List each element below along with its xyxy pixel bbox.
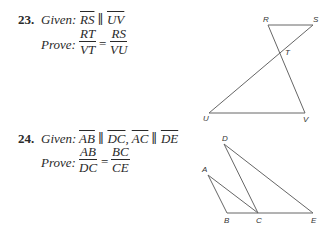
segment-SU [209, 25, 313, 113]
point-label-U: U [203, 114, 209, 123]
figure-problem-23: RSTUV [203, 15, 319, 124]
figure-problem-24: ABCDE [201, 134, 317, 225]
geometry-figures: RSTUVABCDE [0, 0, 333, 227]
point-label-V: V [303, 115, 309, 124]
point-label-B: B [224, 216, 230, 225]
segment-AB [208, 175, 227, 213]
point-label-T: T [285, 48, 291, 57]
point-label-S: S [313, 15, 319, 24]
point-label-R: R [263, 15, 269, 24]
segment-DC [224, 144, 258, 213]
segment-DE [224, 144, 313, 213]
point-label-C: C [256, 216, 262, 225]
point-label-A: A [201, 165, 207, 174]
point-label-E: E [311, 216, 317, 225]
point-label-D: D [222, 134, 228, 143]
segment-AC [208, 175, 258, 213]
segment-RV [268, 25, 305, 113]
